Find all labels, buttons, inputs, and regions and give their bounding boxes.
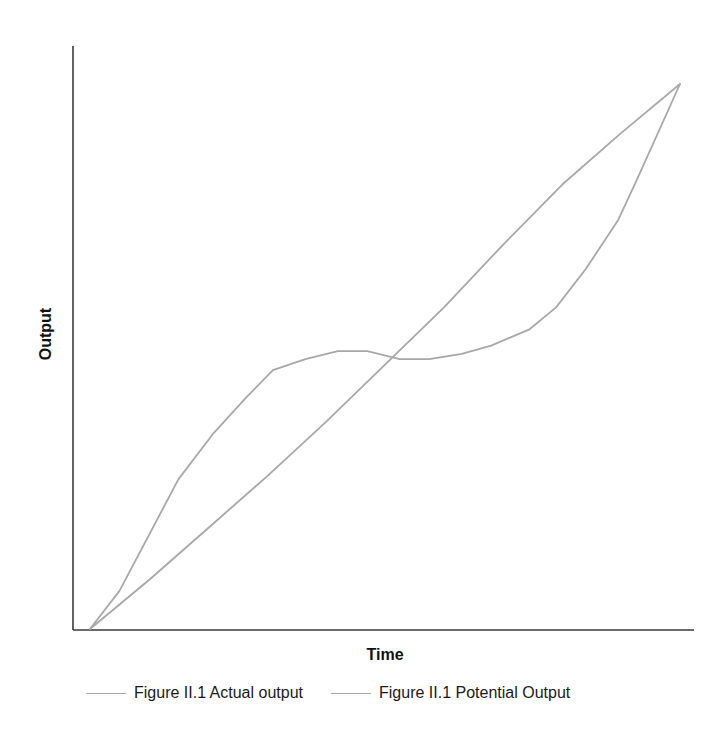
legend-item-actual-output: Figure II.1 Actual output xyxy=(86,684,303,702)
series-actual-output xyxy=(90,84,680,629)
series-layer xyxy=(90,84,680,629)
line-chart xyxy=(0,0,724,729)
series-potential-output xyxy=(90,84,680,629)
legend-label: Figure II.1 Actual output xyxy=(134,684,303,702)
legend-swatch-icon xyxy=(331,693,371,694)
legend-label: Figure II.1 Potential Output xyxy=(379,684,570,702)
legend: Figure II.1 Actual output Figure II.1 Po… xyxy=(86,684,570,702)
legend-swatch-icon xyxy=(86,693,126,694)
legend-item-potential-output: Figure II.1 Potential Output xyxy=(331,684,570,702)
y-axis-title: Output xyxy=(37,297,55,372)
x-axis-title: Time xyxy=(340,646,430,664)
